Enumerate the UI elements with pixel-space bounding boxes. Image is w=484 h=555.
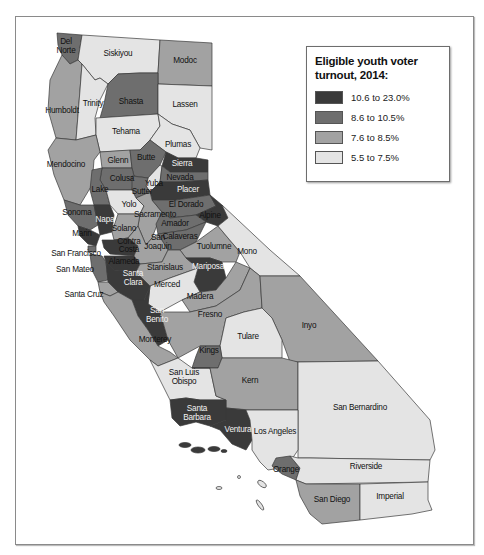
- legend-swatch-dark: [315, 91, 343, 104]
- label-siskiyou: Siskiyou: [104, 49, 134, 58]
- label-kern: Kern: [242, 376, 259, 385]
- legend-title-line-2: turnout, 2014:: [315, 68, 445, 82]
- label-tulare: Tulare: [237, 332, 259, 341]
- legend-item-medium: 7.6 to 8.5%: [315, 131, 445, 145]
- legend-item-high: 8.6 to 10.5%: [315, 111, 445, 125]
- label-san-benito-2: Benito: [146, 315, 169, 324]
- island-channel-1: [179, 443, 191, 448]
- label-solano: Solano: [112, 224, 137, 233]
- label-inyo: Inyo: [302, 321, 317, 330]
- legend-item-highest: 10.6 to 23.0%: [315, 91, 445, 105]
- label-glenn: Glenn: [108, 156, 129, 165]
- label-amador: Amador: [161, 219, 189, 228]
- label-merced: Merced: [154, 280, 181, 289]
- label-colusa: Colusa: [110, 174, 135, 183]
- label-san-luis-obispo: San Luis: [169, 368, 199, 377]
- label-imperial: Imperial: [376, 492, 404, 501]
- label-del-norte: Del: [60, 37, 72, 46]
- label-sacramento: Sacramento: [134, 210, 177, 219]
- label-nevada: Nevada: [166, 173, 194, 182]
- label-san-benito: San: [150, 306, 165, 315]
- county-mono[interactable]: [218, 205, 300, 276]
- label-humboldt: Humboldt: [45, 106, 79, 115]
- label-mono: Mono: [237, 247, 257, 256]
- legend-label: 5.5 to 7.5%: [351, 151, 399, 164]
- map-legend: Eligible youth voter turnout, 2014: 10.6…: [306, 46, 450, 182]
- label-stanislaus: Stanislaus: [147, 263, 183, 272]
- label-mendocino: Mendocino: [47, 160, 86, 169]
- label-lake: Lake: [92, 185, 110, 194]
- legend-title: Eligible youth voter turnout, 2014:: [315, 54, 445, 82]
- legend-label: 7.6 to 8.5%: [351, 131, 399, 144]
- label-calaveras: Calaveras: [162, 232, 197, 241]
- label-san-joaquin-2: Joaquin: [144, 242, 172, 251]
- label-san-diego: San Diego: [314, 495, 351, 504]
- legend-label: 10.6 to 23.0%: [351, 91, 410, 104]
- label-tuolumne: Tuolumne: [197, 242, 232, 251]
- label-santa-clara-2: Clara: [124, 278, 143, 287]
- label-tehama: Tehama: [112, 127, 141, 136]
- label-trinity: Trinity: [83, 99, 105, 108]
- label-ventura: Ventura: [225, 425, 252, 434]
- label-orange: Orange: [273, 465, 300, 474]
- label-shasta: Shasta: [119, 97, 144, 106]
- legend-title-line-1: Eligible youth voter: [315, 54, 445, 68]
- label-napa: Napa: [96, 215, 115, 224]
- island-santa-barbara: [238, 476, 241, 479]
- label-del-norte-2: Norte: [56, 46, 76, 55]
- island-channel-3: [208, 447, 220, 452]
- legend-swatch-medium-light: [315, 131, 343, 144]
- island-catalina: [256, 479, 267, 489]
- island-san-clemente: [255, 499, 265, 511]
- label-san-joaquin: San: [151, 233, 166, 242]
- label-santa-cruz: Santa Cruz: [65, 290, 104, 299]
- label-alpine: Alpine: [199, 211, 221, 220]
- label-kings: Kings: [199, 346, 219, 355]
- label-sonoma: Sonoma: [62, 208, 92, 217]
- label-mariposa: Mariposa: [192, 262, 225, 271]
- label-monterey: Monterey: [139, 335, 173, 344]
- legend-item-low: 5.5 to 7.5%: [315, 151, 445, 165]
- label-santa-clara: Santa: [123, 269, 144, 278]
- legend-swatch-medium-dark: [315, 111, 343, 124]
- island-channel-4: [221, 450, 227, 453]
- label-el-dorado: El Dorado: [169, 200, 204, 209]
- label-san-bernardino: San Bernardino: [333, 403, 388, 412]
- label-contra-costa-2: Costa: [119, 245, 140, 254]
- label-san-luis-obispo-2: Obispo: [172, 377, 197, 386]
- label-modoc: Modoc: [173, 56, 197, 65]
- legend-swatch-light: [315, 151, 343, 164]
- island-san-nicolas: [216, 487, 222, 490]
- legend-label: 8.6 to 10.5%: [351, 111, 404, 124]
- label-alameda: Alameda: [109, 257, 141, 266]
- label-butte: Butte: [137, 153, 156, 162]
- label-yolo: Yolo: [122, 200, 137, 209]
- label-santa-barbara-2: Barbara: [183, 413, 211, 422]
- label-placer: Placer: [177, 185, 199, 194]
- label-santa-barbara: Santa: [187, 404, 208, 413]
- label-plumas: Plumas: [165, 140, 191, 149]
- label-san-mateo: San Mateo: [56, 265, 94, 274]
- label-riverside: Riverside: [350, 462, 383, 471]
- label-sierra: Sierra: [172, 159, 193, 168]
- label-marin: Marin: [72, 229, 92, 238]
- label-san-francisco: San Francisco: [51, 249, 101, 258]
- county-imperial[interactable]: [360, 482, 432, 520]
- label-madera: Madera: [187, 292, 214, 301]
- label-fresno: Fresno: [198, 310, 223, 319]
- label-lassen: Lassen: [172, 100, 198, 109]
- island-channel-2: [191, 447, 205, 453]
- label-los-angeles: Los Angeles: [254, 427, 297, 436]
- label-sutter: Sutter: [132, 187, 153, 196]
